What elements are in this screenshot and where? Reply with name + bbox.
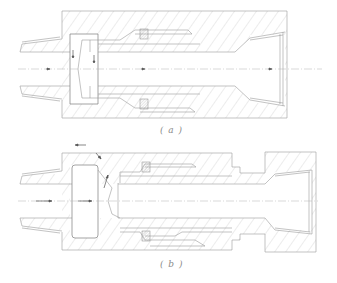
cross-section-figure: ( a ) ( b ): [0, 0, 337, 283]
flow-arrows-a: [47, 50, 272, 70]
technical-drawing: [0, 0, 337, 283]
caption-a: ( a ): [160, 125, 183, 135]
caption-b: ( b ): [160, 259, 184, 269]
chamber-b: [72, 165, 98, 238]
subfigure-b: [18, 144, 318, 252]
seal-lower-b: [142, 231, 150, 241]
seal-upper: [140, 29, 148, 39]
seal-upper-b: [142, 162, 150, 172]
subfigure-a: [18, 11, 322, 118]
seal-lower: [140, 99, 148, 109]
